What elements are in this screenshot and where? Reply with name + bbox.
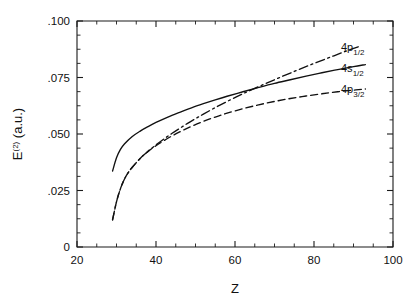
x-axis-major-ticks (77, 21, 393, 247)
y-tick-label: 0 (64, 241, 70, 253)
axis-frame (77, 21, 393, 247)
y-axis-tick-labels: 0.025.050.075.100 (48, 15, 70, 253)
x-tick-label: 40 (150, 254, 163, 266)
x-axis-tick-labels: 20406080100 (71, 254, 403, 266)
x-axis-title: Z (231, 281, 239, 296)
y-axis-major-ticks (77, 21, 393, 247)
curve-label-4s-1-2: 4s1/2 (341, 62, 364, 78)
y-axis-title-group: E(2) (a.u.) (10, 108, 25, 160)
x-tick-label: 80 (308, 254, 321, 266)
chart-figure: 20406080100 0.025.050.075.100 4p1/24s1/2… (0, 0, 409, 306)
x-tick-label: 20 (71, 254, 84, 266)
y-tick-label: .075 (48, 72, 70, 84)
data-series-group (113, 46, 366, 220)
y-axis-title: E(2) (a.u.) (10, 108, 25, 160)
chart-canvas: 20406080100 0.025.050.075.100 4p1/24s1/2… (0, 0, 409, 306)
y-tick-label: .025 (48, 185, 70, 197)
curve-label-4p-1-2: 4p1/2 (341, 41, 365, 57)
series-line-4p-3-2 (113, 89, 366, 220)
y-tick-label: .100 (48, 15, 70, 27)
x-tick-label: 100 (383, 254, 402, 266)
series-line-4s-1-2 (113, 65, 366, 171)
plot-frame (77, 21, 393, 247)
x-tick-label: 60 (229, 254, 242, 266)
curve-labels-group: 4p1/24s1/24p3/2 (341, 41, 365, 99)
x-axis-minor-ticks (97, 21, 374, 247)
curve-label-4p-3-2: 4p3/2 (341, 83, 365, 99)
y-tick-label: .050 (48, 128, 70, 140)
